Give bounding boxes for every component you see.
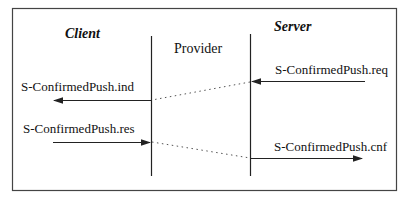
sequence-diagram bbox=[0, 0, 409, 202]
server-header: Server bbox=[274, 20, 311, 34]
client-header: Client bbox=[65, 27, 100, 41]
cnf-label: S-ConfirmedPush.cnf bbox=[274, 140, 387, 153]
res-to-cnf-dotted bbox=[152, 142, 250, 158]
req-to-ind-dotted bbox=[152, 82, 250, 100]
req-label: S-ConfirmedPush.req bbox=[275, 63, 388, 76]
res-label: S-ConfirmedPush.res bbox=[23, 122, 135, 135]
provider-header: Provider bbox=[174, 42, 222, 56]
ind-label: S-ConfirmedPush.ind bbox=[21, 80, 134, 93]
